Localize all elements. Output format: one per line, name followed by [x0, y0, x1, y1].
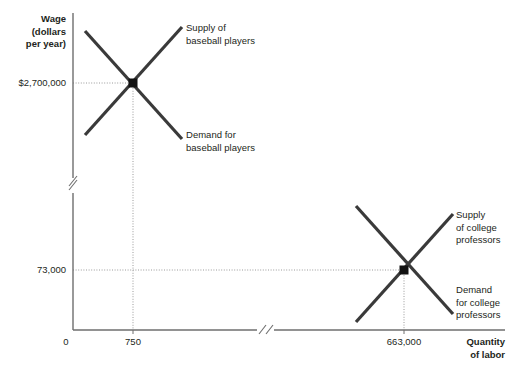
- y-axis-title: Wage (dollars per year): [0, 13, 66, 51]
- x-axis-break-mark: [259, 325, 266, 334]
- demand-label-baseball: Demand for baseball players: [186, 129, 296, 154]
- demand-label-professors: Demand for college professors: [456, 284, 513, 322]
- supply-demand-figure: Wage (dollars per year) $2,700,000 73,00…: [0, 0, 513, 373]
- supply-label-baseball: Supply of baseball players: [186, 22, 296, 47]
- origin-label: 0: [56, 336, 76, 348]
- y-tick-label-2700000: $2,700,000: [0, 77, 66, 89]
- supply-label-professors: Supply of college professors: [456, 209, 513, 247]
- demand-curve-professors: [356, 206, 453, 314]
- x-axis-title: Quantity of labor: [425, 336, 505, 361]
- x-tick-label-750: 750: [103, 336, 163, 348]
- y-tick-label-73000: 73,000: [0, 264, 66, 276]
- plot-canvas: [0, 0, 513, 373]
- equilibrium-point-baseball: [129, 79, 138, 88]
- x-axis-break-mark: [266, 325, 273, 334]
- equilibrium-point-professors: [400, 266, 409, 275]
